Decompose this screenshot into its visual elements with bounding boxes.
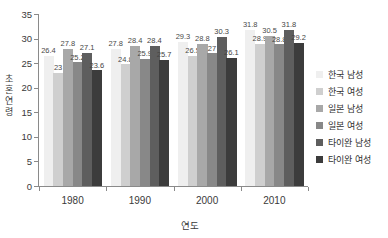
bar[interactable]: [188, 56, 198, 186]
bar[interactable]: [121, 64, 131, 186]
bar-value-label: 26.1: [220, 49, 242, 57]
bar[interactable]: [265, 36, 275, 186]
bar-value-label: 28.8: [191, 35, 213, 43]
legend-label: 타이완 남성: [328, 136, 371, 149]
x-tick-mark: [241, 187, 242, 191]
bar[interactable]: [245, 30, 255, 186]
legend-label: 일본 여성: [328, 119, 363, 132]
bar[interactable]: [255, 44, 265, 186]
bar[interactable]: [44, 56, 54, 186]
bar[interactable]: [82, 53, 92, 186]
bar[interactable]: [150, 46, 160, 186]
legend-label: 일본 남성: [328, 102, 363, 115]
x-tick-mark: [308, 187, 309, 191]
plot-area: 26.42327.825.227.123.627.824.828.425.928…: [39, 14, 308, 186]
legend-item[interactable]: 한국 남성: [316, 66, 371, 83]
bar-group: 26.42327.825.227.123.6: [44, 14, 102, 186]
y-tick-mark: [34, 39, 38, 40]
bar[interactable]: [217, 37, 227, 186]
bar-value-label: 28.4: [144, 37, 166, 45]
bar[interactable]: [63, 49, 73, 186]
y-tick-label: 35: [12, 10, 32, 19]
bar[interactable]: [284, 30, 294, 186]
bar-group: 29.326.528.82730.326.1: [178, 14, 236, 186]
bar-value-label: 29.2: [288, 34, 310, 42]
bar[interactable]: [207, 53, 217, 186]
legend-swatch: [316, 139, 323, 146]
bar-value-label: 25.7: [153, 51, 175, 59]
legend-swatch: [316, 156, 323, 163]
bar[interactable]: [73, 62, 83, 186]
legend-item[interactable]: 일본 남성: [316, 100, 371, 117]
bar[interactable]: [294, 43, 304, 186]
bar-value-label: 30.3: [211, 28, 233, 36]
y-tick-label: 10: [12, 132, 32, 141]
y-tick-label: 5: [12, 157, 32, 166]
y-tick-mark: [34, 14, 38, 15]
x-tick-label: 1990: [110, 195, 170, 206]
legend-label: 한국 여성: [328, 85, 363, 98]
bar[interactable]: [226, 58, 236, 186]
bar-value-label: 26.4: [38, 47, 60, 55]
y-tick-label: 20: [12, 83, 32, 92]
bar-chart: 초 혼 연 령 05101520253035 26.42327.825.227.…: [0, 0, 388, 238]
x-tick-label: 2000: [177, 195, 237, 206]
legend-label: 타이완 여성: [328, 153, 371, 166]
bar-value-label: 31.8: [278, 21, 300, 29]
bar[interactable]: [274, 44, 284, 186]
y-tick-mark: [34, 137, 38, 138]
y-tick-label: 0: [12, 182, 32, 191]
legend-item[interactable]: 타이완 남성: [316, 134, 371, 151]
x-tick-mark: [106, 187, 107, 191]
x-tick-label: 1980: [43, 195, 103, 206]
x-tick-mark: [39, 187, 40, 191]
legend-item[interactable]: 일본 여성: [316, 117, 371, 134]
y-tick-mark: [34, 88, 38, 89]
y-tick-label: 25: [12, 59, 32, 68]
bar-group: 31.828.930.528.831.829.2: [245, 14, 303, 186]
bar[interactable]: [92, 70, 102, 186]
x-tick-mark: [174, 187, 175, 191]
bar-value-label: 23.6: [86, 62, 108, 70]
legend: 한국 남성한국 여성일본 남성일본 여성타이완 남성타이완 여성: [316, 66, 371, 168]
bar[interactable]: [53, 73, 63, 186]
x-tick-label: 2010: [244, 195, 304, 206]
bar[interactable]: [178, 42, 188, 186]
y-axis-title-char: 연: [2, 96, 15, 107]
y-tick-label: 30: [12, 34, 32, 43]
y-tick-mark: [34, 186, 38, 187]
legend-swatch: [316, 122, 323, 129]
legend-label: 한국 남성: [328, 68, 363, 81]
bar[interactable]: [197, 44, 207, 186]
legend-item[interactable]: 한국 여성: [316, 83, 371, 100]
y-tick-label: 15: [12, 108, 32, 117]
bar-value-label: 27.1: [76, 44, 98, 52]
bar[interactable]: [159, 60, 169, 186]
x-axis-title: 연도: [155, 218, 225, 232]
bar-group: 27.824.828.425.928.425.7: [111, 14, 169, 186]
bar[interactable]: [130, 46, 140, 186]
y-tick-mark: [34, 161, 38, 162]
bar[interactable]: [111, 49, 121, 186]
y-tick-mark: [34, 63, 38, 64]
legend-swatch: [316, 105, 323, 112]
bar[interactable]: [140, 59, 150, 186]
legend-swatch: [316, 71, 323, 78]
y-tick-mark: [34, 112, 38, 113]
legend-item[interactable]: 타이완 여성: [316, 151, 371, 168]
legend-swatch: [316, 88, 323, 95]
